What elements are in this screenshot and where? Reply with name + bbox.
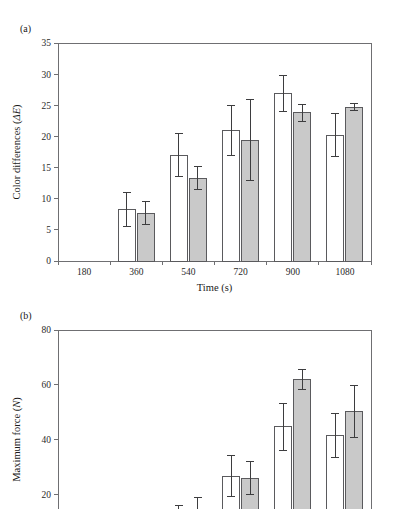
chart-panel-a: (a)05101520253035Color differences (ΔE)1…: [0, 18, 393, 298]
y-axis-title-a: Color differences (ΔE): [11, 104, 23, 200]
bar-b-900-filled: [294, 380, 311, 509]
y-tick-label-a-7: 35: [42, 38, 52, 48]
y-axis-title-tail-b: ): [11, 397, 23, 401]
panel-label-b: (b): [20, 310, 32, 322]
y-tick-label-b-1: 20: [42, 490, 52, 500]
y-tick-label-a-1: 5: [46, 225, 51, 235]
x-tick-label-a-1: 360: [129, 267, 144, 277]
x-tick-label-a-3: 720: [233, 267, 248, 277]
x-axis-title-a: Time (s): [197, 282, 233, 294]
y-axis-title-b: Maximum force (N): [11, 397, 23, 482]
y-axis-title-text-a: Color differences (: [11, 120, 23, 200]
y-tick-label-a-4: 20: [42, 132, 52, 142]
y-tick-label-a-3: 15: [42, 163, 52, 173]
chart-panel-b: (b)020406080Maximum force (N): [0, 300, 393, 509]
bar-a-1080-filled: [346, 107, 363, 261]
y-tick-label-a-0: 0: [46, 256, 51, 266]
y-axis-title-symbol-a: ΔE: [11, 107, 22, 121]
y-tick-label-b-2: 40: [42, 435, 52, 445]
y-tick-label-a-2: 10: [42, 194, 52, 204]
chart-b-svg: (b)020406080Maximum force (N): [0, 300, 393, 509]
y-tick-label-b-4: 80: [42, 325, 52, 335]
plot-frame-b: [58, 330, 371, 509]
bar-a-540-filled: [189, 178, 206, 261]
x-tick-label-a-4: 900: [286, 267, 301, 277]
plot-frame-a: [58, 43, 371, 261]
bar-a-900-open: [275, 93, 292, 261]
y-axis-title-text-b: Maximum force (: [11, 407, 23, 482]
x-tick-label-a-2: 540: [181, 267, 196, 277]
error-bar-b-540-filled: [194, 497, 202, 509]
page-header-strip: [0, 0, 393, 8]
x-tick-label-a-0: 180: [77, 267, 92, 277]
x-tick-label-a-5: 1080: [335, 267, 354, 277]
figure-page: (a)05101520253035Color differences (ΔE)1…: [0, 0, 393, 509]
y-tick-label-b-3: 60: [42, 380, 52, 390]
panel-label-a: (a): [20, 23, 31, 35]
y-tick-label-a-5: 25: [42, 101, 52, 111]
y-tick-label-a-6: 30: [42, 70, 52, 80]
chart-a-svg: (a)05101520253035Color differences (ΔE)1…: [0, 18, 393, 298]
y-axis-title-tail-a: ): [11, 104, 23, 108]
bar-a-900-filled: [294, 113, 311, 261]
